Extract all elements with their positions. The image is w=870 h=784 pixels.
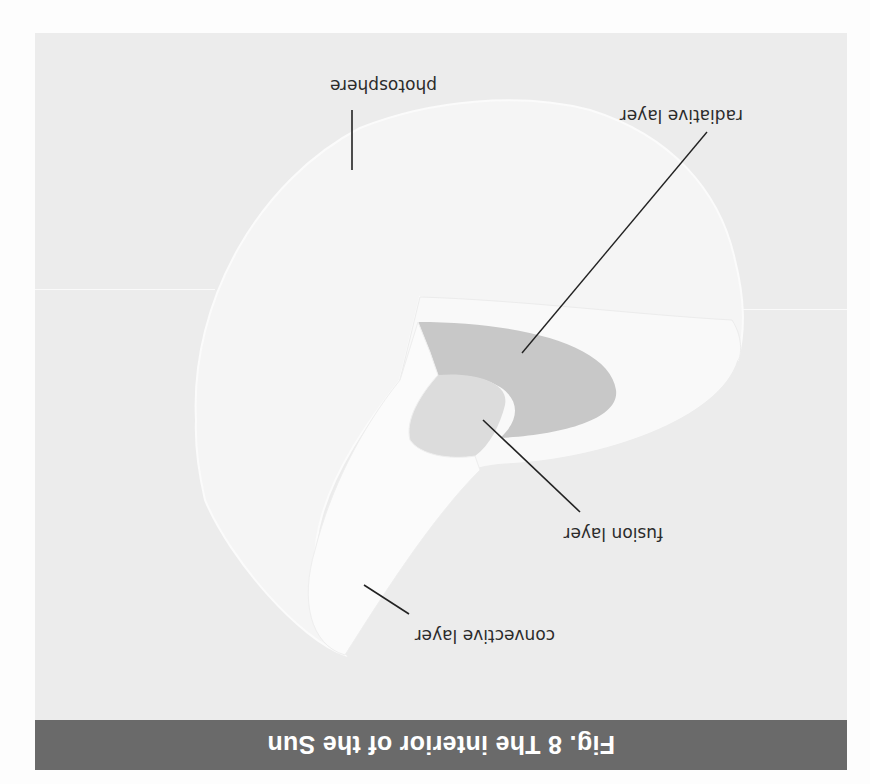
radiative-layer-label: radiative layer	[620, 106, 743, 126]
sun-interior-diagram: photosphere radiative layer fusion layer…	[0, 0, 870, 784]
figure-caption-bar: Fig. 8 The interior of the Sun	[35, 720, 847, 770]
photosphere-label: photosphere	[330, 76, 437, 96]
figure-page: photosphere radiative layer fusion layer…	[0, 0, 870, 784]
figure-caption: Fig. 8 The interior of the Sun	[35, 720, 847, 770]
fusion-layer-label: fusion layer	[563, 524, 663, 544]
convective-layer-label: convective layer	[415, 626, 555, 646]
